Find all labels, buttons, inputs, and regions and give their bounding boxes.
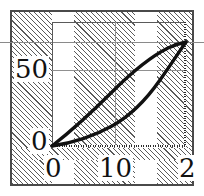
gridline-x-10 — [115, 22, 116, 146]
xtick-label-0: 0 — [44, 155, 63, 181]
gridline-y-50 — [52, 70, 186, 71]
ytick-label-0: 0 — [30, 128, 49, 154]
plot-axis-top — [52, 22, 186, 23]
chart-figure: 50 0 0 10 2 — [0, 0, 204, 196]
xtick-label-20: 2 — [178, 155, 197, 181]
horizontal-cut-line — [0, 42, 204, 43]
plot-edge-dotted-right — [184, 22, 186, 147]
plot-axis-left — [52, 22, 53, 146]
ytick-label-50: 50 — [14, 56, 49, 82]
plot-edge-dotted-bottom — [52, 145, 186, 147]
xtick-label-10: 10 — [98, 155, 133, 181]
